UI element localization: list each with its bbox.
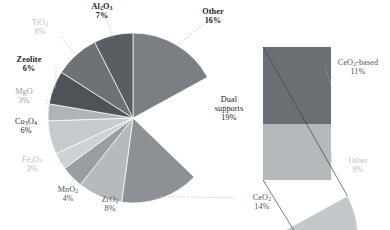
slice-label-tio2-percent: 8% [18, 28, 62, 37]
slice-label-co3o4-percent: 6% [2, 127, 50, 136]
slice-label-al2o3-name: Al2O3 [74, 3, 130, 12]
slice-label-dual-supports-percent: 19% [200, 114, 258, 123]
slice-label-co3o4: Co3O4 6% [2, 118, 50, 136]
slice-label-other: Other 16% [186, 8, 240, 26]
bar-segment-bar_other [263, 124, 331, 180]
slice-label-zro2-percent: 8% [88, 205, 132, 214]
slice-label-fe2o3-percent: 3% [8, 165, 56, 174]
bar-segment-ceo2_based [263, 47, 331, 124]
leader-line-ceo2 [160, 196, 236, 198]
slice-label-dual-supports-name: Dualsupports [200, 96, 258, 114]
slice-label-fe2o3: Fe2O3 3% [8, 156, 56, 174]
leader-line-tio2 [60, 36, 77, 56]
slice-label-mgo-percent: 3% [2, 97, 46, 106]
slice-label-al2o3-percent: 7% [74, 12, 130, 21]
slice-label-ceo2: CeO2 14% [238, 194, 286, 212]
slice-label-mno2: MnO2 4% [46, 186, 90, 204]
slice-label-co3o4-name: Co3O4 [2, 118, 50, 127]
slice-label-zeolite: Zeolite 6% [2, 56, 56, 74]
bar-label-ceo2-based: CeO2-based 11% [327, 59, 389, 77]
slice-label-mno2-percent: 4% [46, 195, 90, 204]
slice-label-zeolite-percent: 6% [2, 65, 56, 74]
slice-label-dual-supports: Dualsupports 19% [200, 96, 258, 123]
slice-label-ceo2-percent: 14% [238, 203, 286, 212]
slice-label-other-percent: 16% [186, 17, 240, 26]
slice-label-fe2o3-name: Fe2O3 [8, 156, 56, 165]
slice-label-al2o3: Al2O3 7% [74, 3, 130, 21]
bar-label-other-percent: 8% [336, 166, 380, 175]
bar-label-ceo2-based-percent: 11% [327, 68, 389, 77]
pie-chart-figure: Al2O3 7% TiO2 8% Zeolite 6% MgO 3% Co3O4… [0, 0, 390, 230]
pie-slice-ceo2 [122, 118, 194, 203]
slice-label-zro2: ZrO2 8% [88, 196, 132, 214]
slice-label-tio2: TiO2 8% [18, 19, 62, 37]
slice-label-mgo: MgO 3% [2, 88, 46, 106]
bar-label-other: Other 8% [336, 157, 380, 175]
breakout-bar-group [263, 47, 333, 180]
leader-line-other [175, 24, 204, 47]
pie-slice-other [133, 33, 208, 118]
leader-line-bar_other [331, 152, 333, 164]
